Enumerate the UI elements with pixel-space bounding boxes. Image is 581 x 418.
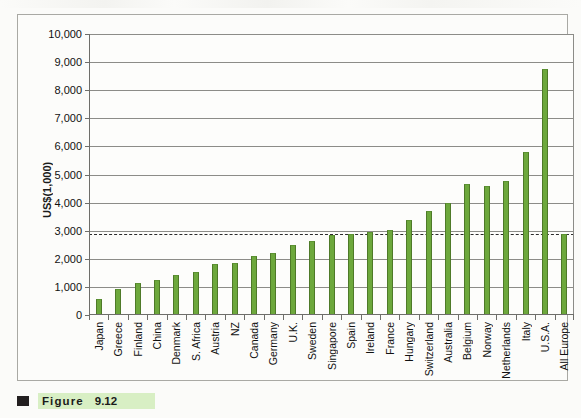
x-tick-mark (380, 315, 381, 320)
bar (523, 152, 529, 315)
x-axis-label: Italy (520, 322, 532, 341)
bar (367, 232, 373, 315)
bar (329, 235, 335, 315)
gridline (89, 34, 574, 35)
x-tick-mark (496, 315, 497, 320)
plot-inner (89, 34, 574, 315)
y-tick-label: 2,000 (54, 253, 82, 265)
x-tick-mark (341, 315, 342, 320)
y-tick-label: 1,000 (54, 281, 82, 293)
gridline (89, 62, 574, 63)
y-tick-mark (85, 315, 89, 316)
y-tick-label: 0 (76, 309, 82, 321)
gridline (89, 90, 574, 91)
bar (173, 275, 179, 315)
x-axis-label: Germany (267, 322, 279, 365)
gridline (89, 146, 574, 147)
x-axis-label: China (151, 322, 163, 349)
y-tick-mark (85, 231, 89, 232)
x-tick-mark (361, 315, 362, 320)
y-tick-label: 4,000 (54, 197, 82, 209)
x-axis-label: NZ (229, 322, 241, 336)
figure-caption: Figure 9.12 (17, 392, 155, 410)
plot-right-border (573, 34, 574, 315)
bar (309, 241, 315, 315)
x-axis-label: Australia (442, 322, 454, 363)
x-tick-mark (186, 315, 187, 320)
x-tick-mark (225, 315, 226, 320)
x-axis-label: Norway (481, 322, 493, 358)
y-tick-mark (85, 287, 89, 288)
y-tick-label: 5,000 (54, 169, 82, 181)
gridline (89, 118, 574, 119)
bar (135, 283, 141, 315)
x-tick-mark (108, 315, 109, 320)
y-tick-mark (85, 90, 89, 91)
x-axis-label: France (384, 322, 396, 355)
bar (115, 289, 121, 315)
y-tick-label: 3,000 (54, 225, 82, 237)
x-axis-label: Japan (93, 322, 105, 351)
bar (426, 211, 432, 315)
x-tick-mark (555, 315, 556, 320)
x-axis-label: S. Africa (190, 322, 202, 361)
x-axis-label: U.S.A. (539, 322, 551, 352)
bar (154, 280, 160, 315)
x-axis-label: Hungary (403, 322, 415, 362)
bar (270, 253, 276, 315)
x-tick-mark (477, 315, 478, 320)
y-tick-label: 9,000 (54, 56, 82, 68)
x-tick-mark (205, 315, 206, 320)
caption-label: Figure (42, 395, 84, 407)
x-tick-mark (535, 315, 536, 320)
y-tick-label: 6,000 (54, 140, 82, 152)
gridline (89, 203, 574, 204)
scan-noise-band (0, 0, 581, 8)
x-tick-mark (89, 315, 90, 320)
y-tick-mark (85, 62, 89, 63)
y-tick-label: 8,000 (54, 84, 82, 96)
x-axis-label: Sweden (306, 322, 318, 360)
bar (348, 234, 354, 315)
x-tick-mark (147, 315, 148, 320)
x-axis-line (89, 314, 574, 315)
bar (290, 245, 296, 315)
x-tick-mark (128, 315, 129, 320)
x-axis-label: Denmark (170, 322, 182, 365)
bar (484, 186, 490, 315)
x-axis-label: Austria (209, 322, 221, 355)
bar (96, 299, 102, 315)
x-axis-label: Greece (112, 322, 124, 356)
x-tick-mark (322, 315, 323, 320)
bar (387, 230, 393, 315)
x-axis-label: Ireland (364, 322, 376, 354)
x-tick-mark (458, 315, 459, 320)
gridline (89, 231, 574, 232)
figure-frame: US$(1,000) 10,0009,0008,0007,0006,0005,0… (17, 14, 568, 381)
bar (232, 263, 238, 315)
y-tick-label: 7,000 (54, 112, 82, 124)
y-tick-mark (85, 203, 89, 204)
bar (193, 272, 199, 315)
x-tick-mark (264, 315, 265, 320)
y-tick-mark (85, 175, 89, 176)
bar (561, 234, 567, 315)
gridline (89, 175, 574, 176)
x-axis-label: Singapore (326, 322, 338, 370)
x-axis-label: Switzerland (423, 322, 435, 376)
x-axis-label: Netherlands (500, 322, 512, 379)
bar (542, 69, 548, 315)
bar (251, 256, 257, 315)
bar (503, 181, 509, 315)
x-axis-label: All Europe (558, 322, 570, 370)
y-tick-mark (85, 118, 89, 119)
x-tick-mark (167, 315, 168, 320)
bar (406, 220, 412, 315)
plot-area: 10,0009,0008,0007,0006,0005,0004,0003,00… (89, 34, 574, 315)
caption-bullet-icon (17, 396, 29, 406)
caption-highlight-band: Figure 9.12 (38, 393, 155, 409)
y-axis-line (89, 34, 90, 315)
caption-number: 9.12 (95, 395, 117, 407)
y-tick-mark (85, 146, 89, 147)
bar (464, 184, 470, 315)
